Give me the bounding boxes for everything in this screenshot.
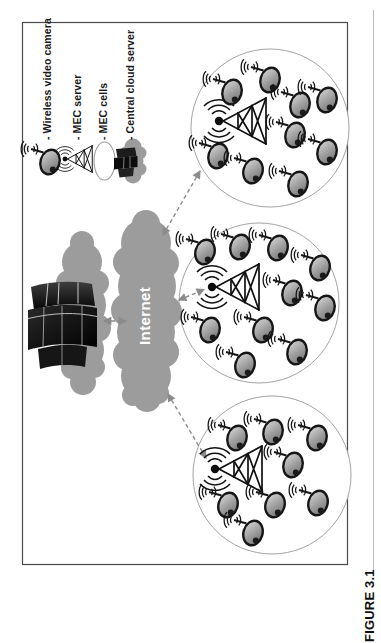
link-internet-cell-1 <box>163 171 200 235</box>
diagram-canvas <box>0 0 381 643</box>
mec-server-icon <box>56 146 92 173</box>
legend-label-mec-server: - MEC server <box>71 75 83 140</box>
link-internet-cell-3 <box>168 394 206 458</box>
legend-label-mec-cells: - MEC cells <box>97 83 109 140</box>
figure-page: - Wireless video camera - MEC server - M… <box>0 0 381 643</box>
mec-cells-icon <box>94 142 115 180</box>
wireless-video-camera-icon <box>21 141 62 176</box>
legend-label-central-cloud-server: - Central cloud server <box>124 30 136 140</box>
legend-label-wireless-video-camera: - Wireless video camera <box>41 18 53 140</box>
internet-label: Internet <box>136 287 153 345</box>
figure-caption: FIGURE 3.1 <box>362 569 377 642</box>
legend-icons <box>21 139 146 184</box>
central-cloud-server-icon <box>114 139 147 184</box>
